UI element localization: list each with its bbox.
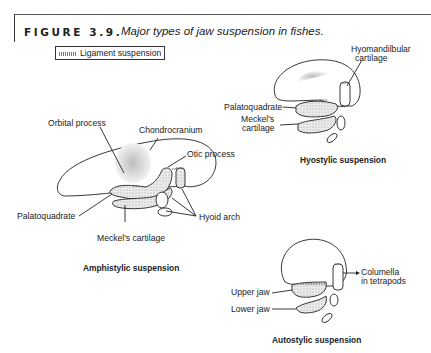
otic-hyomandibular-shape [176,168,185,188]
label-otic-process: Otic process [187,150,235,159]
label-meckels-cartilage: Meckel's cartilage [97,234,165,243]
hyostylic-drawing [274,60,362,144]
label-upper-jaw: Upper jaw [231,288,270,297]
orbital-process-shape [115,143,151,183]
lower-jaw-shape [296,296,327,313]
title-amphistylic: Amphistylic suspension [83,263,179,273]
label-lower-jaw: Lower jaw [231,305,270,314]
hyomandibular-shape [340,82,350,106]
label-hyostylic-palatoquadrate: Palatoquadrate [224,103,282,112]
hyostylic-meckels-shape [298,116,336,133]
label-orbital-process: Orbital process [48,119,106,128]
label-hyomandibular-line2: cartilage [355,54,387,63]
autostylic-drawing [272,239,360,324]
hyostylic-palatoquadrate-shape [296,101,338,117]
label-columella-line2: in tetrapods [361,277,406,286]
label-hyostylic-meckels-line2: cartilage [242,124,274,133]
columella-shape [333,264,343,290]
label-palatoquadrate: Palatoquadrate [17,212,75,221]
amphistylic-drawing [57,127,216,222]
label-hyoid-arch: Hyoid arch [199,213,240,222]
title-hyostylic: Hyostylic suspension [300,155,386,165]
title-autostylic: Autostylic suspension [272,335,361,345]
label-chondrocranium: Chondrocranium [139,126,203,135]
